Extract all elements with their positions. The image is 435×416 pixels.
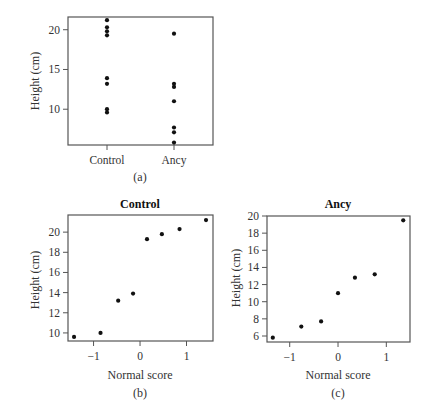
x-tick-label: −1 [87,350,99,362]
data-point [299,324,303,328]
x-tick-label: 0 [335,351,341,363]
plot-frame [267,216,410,342]
y-axis-ticks: 101520 [49,24,69,116]
y-tick-label: 6 [253,330,259,342]
x-axis-ticks: −101 [284,342,390,363]
data-point [160,232,164,236]
y-tick-label: 10 [49,327,61,339]
y-axis-ticks: 68101214161820 [248,210,268,342]
y-tick-label: 12 [248,279,260,291]
data-point [98,331,102,335]
data-point [373,272,377,276]
x-axis-ticks: −101 [87,341,189,362]
y-axis-label: Height (cm) [28,52,42,110]
panel-caption: (b) [133,386,147,400]
figure: 101520 ControlAncy Height (cm) (a) Contr… [0,0,435,416]
y-tick-label: 16 [49,266,61,278]
data-point [131,292,135,296]
panel-a-strip-plot: 101520 ControlAncy Height (cm) (a) [28,17,213,184]
y-axis-label: Height (cm) [28,251,42,309]
y-tick-label: 20 [49,24,61,36]
data-point [401,218,405,222]
data-point [172,32,176,36]
panel-caption: (a) [133,170,146,184]
data-point [319,319,323,323]
data-points [105,18,176,145]
data-point [172,125,176,129]
chart-title: Control [120,197,160,211]
data-point [105,18,109,22]
data-point [271,336,275,340]
x-axis-label: Normal score [108,368,173,382]
x-category-label: Ancy [162,154,187,167]
data-points [72,218,208,339]
x-tick-label: 1 [383,351,389,363]
data-point [116,299,120,303]
y-axis-ticks: 101214161820 [49,226,69,339]
y-tick-label: 12 [49,307,61,319]
data-point [105,29,109,33]
y-tick-label: 16 [248,244,260,256]
data-point [353,276,357,280]
chart-title: Ancy [325,197,352,211]
data-point [172,82,176,86]
x-axis-label: Normal score [306,368,371,382]
data-point [105,76,109,80]
panel-caption: (c) [331,386,344,400]
data-point [72,335,76,339]
data-point [105,82,109,86]
x-tick-label: 0 [137,350,143,362]
plot-frame [68,17,213,145]
data-point [172,130,176,134]
data-point [105,33,109,37]
data-point [204,218,208,222]
panel-b-normal-probability-plot-control: Control 101214161820 −101 Height (cm) No… [28,197,213,400]
y-tick-label: 14 [248,261,260,273]
x-tick-label: 1 [184,350,190,362]
plot-frame [68,215,213,341]
data-point [177,227,181,231]
data-points [271,218,406,340]
y-tick-label: 20 [49,226,61,238]
y-tick-label: 8 [253,313,259,325]
y-tick-label: 14 [49,287,61,299]
y-tick-label: 10 [49,103,61,115]
y-axis-label: Height (cm) [229,249,243,307]
data-point [172,141,176,145]
data-point [336,291,340,295]
y-tick-label: 18 [49,246,61,258]
x-axis-categories: ControlAncy [89,145,186,167]
data-point [145,237,149,241]
y-tick-label: 20 [248,210,260,222]
x-tick-label: −1 [284,351,296,363]
data-point [105,25,109,29]
data-point [105,107,109,111]
panel-c-normal-probability-plot-ancy: Ancy 68101214161820 −101 Height (cm) Nor… [229,197,410,400]
y-tick-label: 15 [49,63,61,75]
data-point [172,99,176,103]
x-category-label: Control [89,154,124,166]
y-tick-label: 10 [248,296,260,308]
y-tick-label: 18 [248,227,260,239]
